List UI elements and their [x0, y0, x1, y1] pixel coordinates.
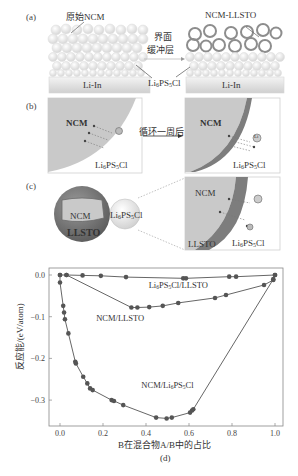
series-line — [60, 275, 275, 278]
data-point — [112, 399, 117, 404]
data-point — [63, 317, 68, 322]
reaction-energy-chart: 0.00.20.40.60.81.00.0−0.1−0.2−0.3Li6PS5C… — [0, 0, 298, 476]
data-point — [64, 273, 69, 278]
series-annotation: NCM/LLSTO — [96, 313, 144, 323]
x-axis-label: B在混合物A/B中的占比 — [118, 438, 211, 451]
data-point — [176, 301, 181, 306]
series-annotation: NCM/Li6PS5Cl — [141, 380, 194, 391]
data-point — [160, 304, 165, 309]
data-point — [66, 331, 71, 336]
data-point — [164, 416, 169, 421]
data-point — [90, 388, 95, 393]
data-point — [85, 381, 90, 386]
x-tick-label: 0.6 — [184, 429, 194, 438]
x-tick-label: 1.0 — [270, 429, 280, 438]
data-point — [99, 274, 104, 279]
y-tick-label: 0.0 — [35, 271, 45, 280]
data-point — [61, 304, 66, 309]
data-point — [191, 407, 196, 412]
data-point — [81, 374, 86, 379]
y-tick-label: −0.2 — [30, 354, 45, 363]
data-point — [58, 280, 63, 285]
y-tick-label: −0.1 — [30, 313, 45, 322]
data-point — [234, 274, 239, 279]
y-tick-label: −0.3 — [30, 396, 45, 405]
data-point — [213, 296, 218, 301]
data-point — [80, 273, 85, 278]
data-point — [227, 274, 232, 279]
data-point — [147, 305, 152, 310]
series-annotation: Li6PS5Cl/LLSTO — [149, 280, 208, 291]
series-line — [60, 275, 275, 418]
data-point — [273, 273, 278, 278]
x-tick-label: 0.4 — [141, 429, 151, 438]
x-tick-label: 0.2 — [98, 429, 108, 438]
x-tick-label: 0.0 — [55, 429, 65, 438]
panel-d-label: (d) — [160, 453, 171, 463]
data-point — [271, 277, 276, 282]
data-point — [121, 403, 126, 408]
plot-frame — [49, 268, 283, 426]
x-tick-label: 0.8 — [227, 429, 237, 438]
data-point — [224, 293, 229, 298]
data-point — [262, 283, 267, 288]
data-point — [170, 415, 175, 420]
data-point — [154, 415, 159, 420]
y-axis-label: 反应能/(eV/atom) — [13, 292, 26, 382]
data-point — [58, 273, 63, 278]
data-point — [135, 305, 140, 310]
series-line — [67, 275, 274, 308]
data-point — [129, 305, 134, 310]
data-point — [62, 310, 67, 315]
data-point — [74, 361, 79, 366]
data-point — [124, 275, 129, 280]
